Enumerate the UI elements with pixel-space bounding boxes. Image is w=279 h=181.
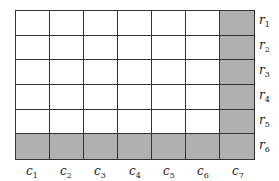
col-label-c5: c5 xyxy=(163,165,175,180)
grid-cell-r5-c6 xyxy=(186,110,220,135)
grid-cell-r3-c4 xyxy=(118,60,152,85)
col-label-c7: c7 xyxy=(232,165,244,180)
grid-cell-r4-c3 xyxy=(84,85,118,110)
grid-cell-r1-c3 xyxy=(84,11,118,36)
grid-cell-r1-c5 xyxy=(152,11,186,36)
grid-cell-r1-c7 xyxy=(220,11,254,36)
grid-cell-r4-c6 xyxy=(186,85,220,110)
grid-cell-r2-c1 xyxy=(16,36,50,61)
grid-cell-r3-c3 xyxy=(84,60,118,85)
grid-cell-r2-c6 xyxy=(186,36,220,61)
grid-cell-r2-c7 xyxy=(220,36,254,61)
grid-cell-r5-c3 xyxy=(84,110,118,135)
grid-cell-r5-c2 xyxy=(50,110,84,135)
grid-cell-r1-c2 xyxy=(50,11,84,36)
grid-cell-r2-c3 xyxy=(84,36,118,61)
col-label-c1: c1 xyxy=(26,165,38,180)
row-label-r6: r6 xyxy=(259,139,270,154)
grid-cell-r3-c5 xyxy=(152,60,186,85)
grid-cell-r2-c2 xyxy=(50,36,84,61)
row-label-r4: r4 xyxy=(259,89,270,104)
row-label-r5: r5 xyxy=(259,114,270,129)
col-label-c3: c3 xyxy=(94,165,106,180)
col-label-c6: c6 xyxy=(197,165,209,180)
grid-cell-r6-c2 xyxy=(50,134,84,159)
row-label-r2: r2 xyxy=(259,39,270,54)
grid-cell-r6-c1 xyxy=(16,134,50,159)
row-label-r3: r3 xyxy=(259,64,270,79)
col-label-c4: c4 xyxy=(129,165,141,180)
grid-cell-r3-c6 xyxy=(186,60,220,85)
col-label-c2: c2 xyxy=(60,165,72,180)
grid-cell-r5-c7 xyxy=(220,110,254,135)
grid-cell-r2-c5 xyxy=(152,36,186,61)
grid-cell-r6-c7 xyxy=(220,134,254,159)
grid-cell-r1-c6 xyxy=(186,11,220,36)
grid-cell-r5-c5 xyxy=(152,110,186,135)
grid-cell-r4-c4 xyxy=(118,85,152,110)
grid-cell-r3-c1 xyxy=(16,60,50,85)
grid-cell-r1-c1 xyxy=(16,11,50,36)
grid-cell-r6-c3 xyxy=(84,134,118,159)
grid-cell-r6-c5 xyxy=(152,134,186,159)
grid-cell-r4-c2 xyxy=(50,85,84,110)
grid-cell-r4-c5 xyxy=(152,85,186,110)
grid-cell-r6-c6 xyxy=(186,134,220,159)
grid-cell-r5-c1 xyxy=(16,110,50,135)
grid-cell-r4-c7 xyxy=(220,85,254,110)
grid-cell-r1-c4 xyxy=(118,11,152,36)
row-label-r1: r1 xyxy=(259,14,270,29)
grid xyxy=(15,10,255,160)
grid-cell-r6-c4 xyxy=(118,134,152,159)
grid-cell-r3-c7 xyxy=(220,60,254,85)
grid-cell-r2-c4 xyxy=(118,36,152,61)
grid-cell-r4-c1 xyxy=(16,85,50,110)
grid-cell-r3-c2 xyxy=(50,60,84,85)
grid-cell-r5-c4 xyxy=(118,110,152,135)
